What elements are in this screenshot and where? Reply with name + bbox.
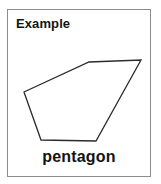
example-shape-card: Example pentagon [7,9,151,177]
shape-illustration [8,38,150,144]
pentagon-polygon [24,60,141,141]
screenshot-root: Example pentagon [0,0,161,184]
pentagon-shape-svg [8,38,150,144]
shape-name-caption: pentagon [8,148,150,166]
example-heading: Example [16,17,70,31]
